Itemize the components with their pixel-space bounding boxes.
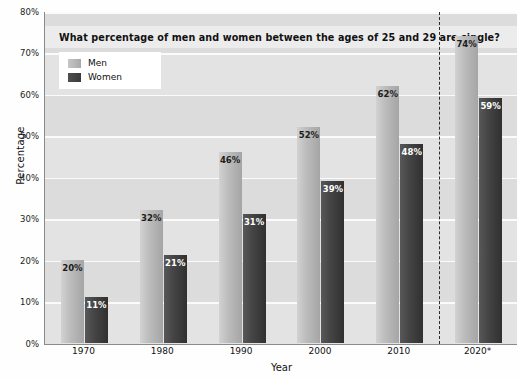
bar-women-1970: 11% [85, 297, 108, 343]
background-band [45, 178, 517, 219]
bar-women-2000: 39% [321, 181, 344, 343]
forecast-divider-line [439, 12, 440, 344]
legend-item-men: Men [68, 56, 161, 70]
bar-men-2000: 52% [297, 127, 320, 342]
legend-label-men: Men [88, 58, 107, 68]
bar-value-label: 21% [164, 258, 187, 268]
legend-item-women: Women [68, 70, 161, 84]
bar-women-2010: 48% [400, 144, 423, 343]
y-tick-label: 40% [6, 173, 39, 183]
bar-men-2020: 74% [455, 36, 478, 343]
bar-value-label: 20% [61, 263, 84, 273]
gridline [45, 302, 517, 304]
gridline [45, 178, 517, 180]
bar-women-1980: 21% [164, 255, 187, 342]
x-axis-title: Year [44, 362, 519, 373]
legend: Men Women [59, 52, 161, 89]
x-tick-label: 1980 [151, 346, 174, 356]
bar-value-label: 46% [219, 155, 242, 165]
y-tick-label: 30% [6, 214, 39, 224]
legend-swatch-women-icon [68, 73, 81, 82]
bar-men-1980: 32% [140, 210, 163, 343]
background-band [45, 261, 517, 302]
bar-value-label: 62% [376, 89, 399, 99]
y-tick-label: 10% [6, 297, 39, 307]
y-tick-label: 20% [6, 256, 39, 266]
bar-value-label: 48% [400, 147, 423, 157]
y-tick-label: 60% [6, 90, 39, 100]
chart-title-banner: What percentage of men and women between… [45, 26, 517, 48]
x-tick-label: 1970 [72, 346, 95, 356]
bar-value-label: 74% [455, 39, 478, 49]
y-axis-ticks: 0%10%20%30%40%50%60%70%80% [3, 0, 39, 379]
x-axis-ticks: 197019801990200020102020* [44, 346, 517, 362]
y-tick-label: 80% [6, 7, 39, 17]
legend-swatch-men-icon [68, 59, 81, 68]
gridline [45, 261, 517, 263]
background-band [45, 95, 517, 136]
bar-chart: Percentage 0%10%20%30%40%50%60%70%80% Wh… [0, 0, 519, 379]
x-tick-label: 2020* [464, 346, 491, 356]
bar-women-2020: 59% [479, 98, 502, 342]
x-tick-label: 2010 [387, 346, 410, 356]
bar-men-1970: 20% [61, 260, 84, 343]
bar-women-1990: 31% [243, 214, 266, 342]
bar-value-label: 39% [321, 184, 344, 194]
bar-men-1990: 46% [219, 152, 242, 343]
bar-value-label: 11% [85, 300, 108, 310]
gridline [45, 95, 517, 97]
plot-area: What percentage of men and women between… [44, 12, 517, 345]
y-tick-label: 70% [6, 48, 39, 58]
x-tick-label: 1990 [230, 346, 253, 356]
y-tick-label: 50% [6, 131, 39, 141]
x-tick-label: 2000 [308, 346, 331, 356]
gridline [45, 12, 517, 14]
legend-label-women: Women [88, 72, 122, 82]
bar-value-label: 59% [479, 101, 502, 111]
bar-value-label: 31% [243, 217, 266, 227]
gridline [45, 219, 517, 221]
y-tick-label: 0% [6, 339, 39, 349]
bar-value-label: 32% [140, 213, 163, 223]
chart-title: What percentage of men and women between… [45, 32, 500, 43]
gridline [45, 136, 517, 138]
bar-value-label: 52% [297, 130, 320, 140]
bar-men-2010: 62% [376, 86, 399, 343]
